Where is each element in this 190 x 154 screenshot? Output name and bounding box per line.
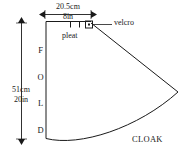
height-dimension-line <box>16 23 27 139</box>
cloak-pattern-diagram: 20.5cm 8in 51cm 20in F O L D pleat velcr… <box>0 0 190 154</box>
velcro-square-icon <box>86 21 93 28</box>
width-dimension-in-label: 8in <box>44 13 92 21</box>
velcro-label: velcro <box>114 19 134 27</box>
cloak-label: CLOAK <box>132 135 163 144</box>
fold-letter-f: F <box>35 46 46 56</box>
fold-edge-label: F O L D <box>35 29 46 152</box>
diagram-canvas <box>0 0 190 154</box>
pleat-label: pleat <box>62 32 78 40</box>
fold-letter-o: O <box>35 73 46 83</box>
width-dimension-cm-label: 20.5cm <box>44 3 92 11</box>
fold-letter-l: L <box>35 99 46 109</box>
pleat-marks <box>71 22 80 28</box>
fold-letter-d: D <box>35 126 46 136</box>
